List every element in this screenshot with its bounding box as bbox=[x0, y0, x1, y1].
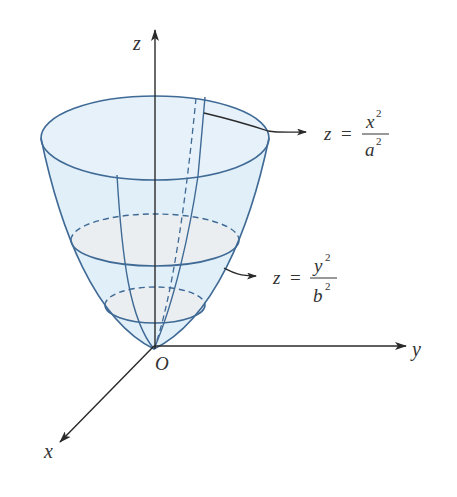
eq2-lhs: z bbox=[272, 267, 281, 288]
y-axis-label: y bbox=[410, 338, 421, 361]
eq2-numerator: y bbox=[312, 255, 323, 276]
x-axis bbox=[60, 346, 154, 442]
equation-yz-trace: z = y 2 b 2 bbox=[272, 251, 337, 306]
eq1-numerator-exp: 2 bbox=[376, 107, 382, 119]
annotation-arrow-xz bbox=[268, 131, 306, 132]
eq2-numerator-exp: 2 bbox=[325, 251, 331, 263]
eq1-equals: = bbox=[341, 123, 352, 144]
annotation-arrow-yz bbox=[224, 268, 256, 276]
eq1-lhs: z bbox=[323, 123, 332, 144]
z-axis-label: z bbox=[132, 32, 141, 54]
paraboloid-diagram: z y x O z = x 2 a 2 z = y 2 b 2 bbox=[0, 0, 457, 497]
eq1-numerator: x bbox=[365, 111, 375, 132]
eq1-denominator-exp: 2 bbox=[376, 135, 382, 147]
eq1-denominator: a bbox=[365, 139, 375, 160]
eq2-denominator-exp: 2 bbox=[325, 280, 331, 292]
origin-label: O bbox=[155, 353, 169, 374]
eq2-denominator: b bbox=[313, 285, 323, 306]
equation-xz-trace: z = x 2 a 2 bbox=[323, 107, 389, 160]
eq2-equals: = bbox=[290, 267, 301, 288]
x-axis-label: x bbox=[43, 440, 53, 462]
